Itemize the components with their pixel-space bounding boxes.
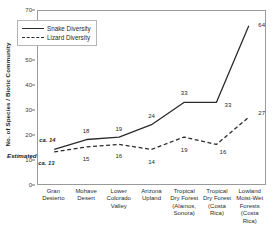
x-axis-label-line: Dry Forest (166, 195, 202, 202)
y-axis-tick-label: 50 (25, 57, 32, 63)
legend-item-lizard-diversity: Lizard Diversity (22, 33, 91, 42)
data-point-label: 24 (148, 113, 155, 119)
solid-line-icon (22, 25, 44, 32)
y-axis-tick-mark (32, 60, 35, 61)
data-point-label: ca. 13 (38, 160, 54, 166)
x-axis-label-line: Gran (35, 188, 71, 195)
series-line-lizard-diversity (54, 117, 249, 152)
dashed-line-icon (22, 34, 44, 41)
x-axis-label-line: Sonora) (166, 210, 202, 217)
y-axis-tick-mark (32, 160, 35, 161)
y-axis-tick-mark (32, 135, 35, 136)
legend-item-snake-diversity: Snake Diversity (22, 24, 91, 33)
data-point-label: 33 (181, 90, 188, 96)
x-axis-label-line: Tropical (166, 188, 202, 195)
data-point-label: 27 (258, 110, 265, 116)
x-axis-category-label: MohaveDesert (68, 188, 104, 203)
chart-legend: Snake Diversity Lizard Diversity (17, 20, 97, 46)
legend-item-label: Snake Diversity (47, 25, 91, 32)
x-axis-category-labels: GranDesiertoMohaveDesertLowerColoradoVal… (37, 188, 266, 244)
y-axis-title-text: No. of Species / Biotic Community (4, 42, 11, 146)
x-axis-category-label: GranDesierto (35, 188, 71, 203)
species-diversity-line-chart: No. of Species / Biotic Community 010203… (0, 0, 273, 244)
y-axis-tick-mark (32, 10, 35, 11)
y-axis-title: No. of Species / Biotic Community (0, 0, 14, 188)
x-axis-category-label: TropicalDry Forest(Alamos,Sonora) (166, 188, 202, 218)
x-axis-label-line: (Alamos, (166, 203, 202, 210)
x-axis-label-line: Desert (68, 195, 104, 202)
x-axis-category-label: LowerColoradoValley (101, 188, 137, 210)
data-point-label: 33 (225, 102, 232, 108)
x-axis-label-line: Rica) (232, 218, 268, 225)
y-axis-tick-label: 70 (25, 7, 32, 13)
x-axis-label-line: Valley (101, 203, 137, 210)
y-axis-tick-label: 30 (25, 107, 32, 113)
data-point-label: 19 (181, 147, 188, 153)
x-axis-label-line: Upland (134, 195, 170, 202)
x-axis-category-label: ArizonaUpland (134, 188, 170, 203)
data-point-label: 64 (258, 22, 265, 28)
data-point-label: 18 (83, 128, 90, 134)
legend-item-label: Lizard Diversity (47, 34, 90, 41)
x-axis-label-line: Desierto (35, 195, 71, 202)
data-point-label: 16 (220, 149, 227, 155)
x-axis-label-line: Lowland (232, 188, 268, 195)
y-axis-tick-label: 20 (25, 132, 32, 138)
data-point-label: 19 (115, 126, 122, 132)
x-axis-label-line: Mohave (68, 188, 104, 195)
data-point-label: 14 (148, 159, 155, 165)
x-axis-label-line: Moist-Wet (232, 195, 268, 202)
y-axis-tick-mark (32, 85, 35, 86)
y-axis-tick-mark (32, 110, 35, 111)
y-axis-tick-label: 40 (25, 82, 32, 88)
x-axis-label-line: Lower (101, 188, 137, 195)
x-axis-label-line: (Costa (199, 203, 235, 210)
data-point-label: 15 (83, 156, 90, 162)
x-axis-category-label: TropicalDry Forest(CostaRica) (199, 188, 235, 218)
x-axis-label-line: Forests (232, 203, 268, 210)
x-axis-label-line: Dry Forest (199, 195, 235, 202)
x-axis-label-line: (Costa (232, 210, 268, 217)
data-point-label: ca. 14 (39, 137, 55, 143)
x-axis-label-line: Rica) (199, 210, 235, 217)
x-axis-label-line: Arizona (134, 188, 170, 195)
estimated-annotation: Estimated (7, 152, 37, 159)
x-axis-label-line: Colorado (101, 195, 137, 202)
x-axis-category-label: LowlandMoist-WetForests(CostaRica) (232, 188, 268, 225)
data-point-label: 16 (115, 153, 122, 159)
x-axis-label-line: Tropical (199, 188, 235, 195)
y-axis-tick-mark (32, 185, 35, 186)
